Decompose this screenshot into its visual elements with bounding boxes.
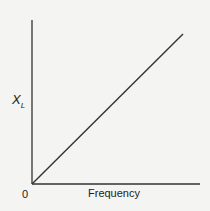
reactance-line	[32, 34, 183, 184]
x-axis-label: Frequency	[88, 187, 140, 199]
y-axis-label: XL	[12, 92, 25, 110]
origin-label: 0	[22, 188, 28, 200]
chart-plot	[0, 0, 210, 211]
